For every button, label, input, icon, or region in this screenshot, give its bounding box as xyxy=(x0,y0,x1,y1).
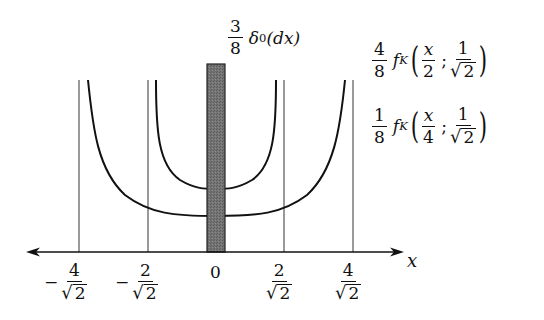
legend-param-den: 2 xyxy=(461,62,476,80)
legend-param-den: 2 xyxy=(461,128,476,146)
legend-sep: ; xyxy=(441,50,447,70)
x-axis-label: x xyxy=(407,250,417,271)
legend-coef: 1 8 xyxy=(372,107,387,146)
sqrt-icon: √ xyxy=(266,284,277,302)
right-paren: ) xyxy=(479,42,487,78)
legend-arg-num: x xyxy=(422,41,436,61)
sqrt-icon: √ xyxy=(450,62,461,80)
delta-subscript: 0 xyxy=(259,31,266,45)
legend-coef-den: 8 xyxy=(374,61,385,80)
sqrt-icon: √ xyxy=(335,284,346,302)
legend-item-wide: 1 8 f K ( x 4 ; 1 √2 ) xyxy=(372,106,490,146)
legend-param: 1 √2 xyxy=(450,40,476,80)
sqrt-icon: √ xyxy=(61,284,72,302)
coef-numerator: 3 xyxy=(228,18,243,38)
tick-label-pos4: 4 √2 xyxy=(335,262,361,302)
delta-symbol: δ xyxy=(249,28,259,48)
legend-param-num: 1 xyxy=(456,40,471,60)
legend-arg-den: 4 xyxy=(423,127,434,146)
delta-argument: (dx) xyxy=(266,28,300,48)
dirac-mass-bar xyxy=(207,64,225,252)
tick-den: 2 xyxy=(277,284,292,302)
legend-func-sub: K xyxy=(399,53,408,67)
tick-num: 2 xyxy=(272,262,287,282)
minus-sign: − xyxy=(115,272,129,292)
legend-arg-den: 2 xyxy=(423,61,434,80)
tick-label-pos2: 2 √2 xyxy=(266,262,292,302)
tick-label-zero: 0 xyxy=(210,262,221,282)
right-paren: ) xyxy=(479,108,487,144)
legend-coef-num: 1 xyxy=(372,107,387,127)
tick-num: 2 xyxy=(138,262,153,282)
legend-coef-den: 8 xyxy=(374,127,385,146)
minus-sign: − xyxy=(44,272,58,292)
legend-arg: x 2 xyxy=(422,41,436,80)
legend-func-sub: K xyxy=(399,119,408,133)
legend-sep: ; xyxy=(441,116,447,136)
tick-den: 2 xyxy=(346,284,361,302)
legend-arg-num: x xyxy=(422,107,436,127)
left-paren: ( xyxy=(411,108,419,144)
tick-num: 4 xyxy=(67,262,82,282)
sqrt-icon: √ xyxy=(450,128,461,146)
legend-coef: 4 8 xyxy=(372,41,387,80)
legend-param-num: 1 xyxy=(456,106,471,126)
tick-den: 2 xyxy=(73,284,88,302)
dirac-mass-label: 3 8 δ 0 (dx) xyxy=(228,18,300,57)
coefficient-fraction: 3 8 xyxy=(228,18,243,57)
legend-arg: x 4 xyxy=(422,107,436,146)
sqrt-icon: √ xyxy=(132,284,143,302)
tick-label-neg4: − 4 √2 xyxy=(44,262,87,302)
tick-den: 2 xyxy=(144,284,159,302)
left-paren: ( xyxy=(411,42,419,78)
legend-item-narrow: 4 8 f K ( x 2 ; 1 √2 ) xyxy=(372,40,490,80)
coef-denominator: 8 xyxy=(230,38,241,57)
tick-label-neg2: − 2 √2 xyxy=(115,262,158,302)
legend-coef-num: 4 xyxy=(372,41,387,61)
tick-num: 4 xyxy=(341,262,356,282)
legend-param: 1 √2 xyxy=(450,106,476,146)
